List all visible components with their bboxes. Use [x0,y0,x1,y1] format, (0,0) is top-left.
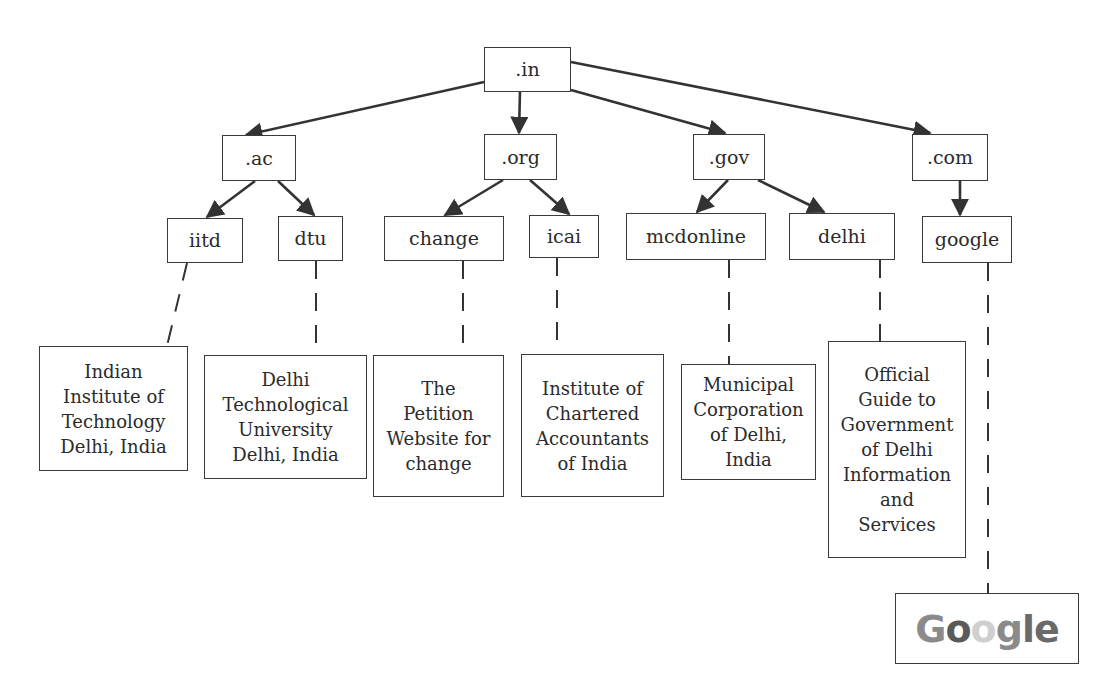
desc-dtu: Delhi Technological University Delhi, In… [204,355,367,479]
desc-change: The Petition Website for change [373,355,504,497]
desc-line: Corporation [693,397,803,422]
node-in: .in [484,47,571,92]
desc-line: Technological [223,392,349,417]
node-google: google [922,216,1012,263]
desc-line: Municipal [703,372,794,397]
node-gov: .gov [693,134,765,180]
node-label: icai [547,227,581,246]
logo-letter: o [945,607,970,651]
node-label: delhi [818,227,866,246]
node-label: google [935,230,1000,249]
desc-line: of Delhi, [710,422,787,447]
arrow-in-to-org [519,91,520,133]
desc-mcdonline: Municipal Corporation of Delhi, India [681,364,816,480]
arrow-org-to-change [445,180,503,215]
desc-line: University [238,417,332,442]
logo-letter: o [971,607,996,651]
node-com: .com [912,134,988,181]
node-label: change [409,229,479,248]
arrow-gov-to-mcdonline [697,180,728,212]
node-delhi: delhi [789,213,895,260]
desc-line: India [725,447,772,472]
desc-line: Chartered [546,401,639,426]
node-label: .org [501,148,540,167]
logo-letter: e [1034,607,1059,651]
desc-line: Guide to [858,387,936,412]
node-iitd: iitd [167,218,243,263]
node-label: .com [927,148,973,167]
dash-iitd [167,263,187,346]
logo-letter: G [915,607,945,651]
desc-icai: Institute of Chartered Accountants of In… [521,354,664,497]
arrow-gov-to-delhi [758,180,824,212]
desc-line: Technology [62,409,166,434]
node-label: mcdonline [646,227,746,246]
domain-hierarchy-diagram: .in .ac .org .gov .com iitd dtu change i… [0,0,1110,694]
node-ac: .ac [222,135,296,181]
google-logo-icon: Google [915,610,1058,648]
desc-line: of Delhi [861,437,932,462]
desc-line: Delhi, India [232,442,338,467]
node-label: .in [515,60,539,79]
arrow-ac-to-iitd [207,181,255,217]
desc-line: Delhi [261,367,309,392]
desc-line: and [880,487,914,512]
desc-line: Delhi, India [60,434,166,459]
desc-line: Government [841,412,954,437]
arrow-in-to-com [571,62,930,133]
desc-line: Institute of [542,376,643,401]
desc-line: Official [864,362,930,387]
node-label: .ac [245,149,273,168]
arrow-in-to-ac [246,82,484,135]
node-icai: icai [529,215,599,258]
desc-line: Services [858,512,935,537]
logo-letter: g [996,607,1022,651]
solid-arrows [207,62,960,217]
desc-google: Google [895,593,1079,664]
arrow-org-to-icai [530,180,569,214]
arrow-in-to-gov [571,90,725,133]
desc-line: change [405,451,471,476]
node-change: change [384,216,504,261]
desc-line: Accountants [536,426,649,451]
node-label: dtu [294,229,326,248]
node-mcdonline: mcdonline [626,213,766,260]
node-dtu: dtu [278,216,343,261]
node-label: iitd [189,231,221,250]
node-org: .org [484,134,557,180]
node-label: .gov [709,148,749,167]
desc-line: Institute of [63,384,164,409]
desc-line: of India [558,451,628,476]
desc-line: Website for [387,426,491,451]
arrow-ac-to-dtu [278,181,314,215]
desc-line: The [421,376,455,401]
desc-line: Petition [403,401,473,426]
desc-delhi: Official Guide to Government of Delhi In… [828,341,966,558]
desc-iitd: Indian Institute of Technology Delhi, In… [39,346,188,471]
desc-line: Information [843,462,951,487]
desc-line: Indian [84,359,142,384]
logo-letter: l [1022,607,1034,651]
